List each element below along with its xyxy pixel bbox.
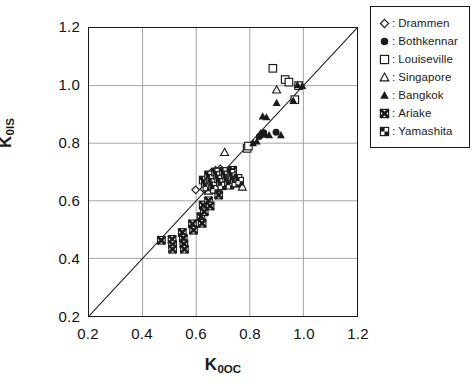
legend-label: Bangkok [398, 89, 443, 101]
legend-label: Singapore [398, 71, 451, 83]
scatter-chart-figure: 0.20.40.60.81.01.2 K0IS 0.20.40.60.81.01… [0, 0, 474, 388]
filled-circle-icon [378, 35, 391, 48]
data-point [221, 148, 229, 155]
y-axis-title: K0IS [0, 118, 16, 148]
x-tick-label: 1.2 [335, 325, 381, 342]
legend-label: Yamashita [398, 125, 452, 137]
x-tick-label: 0.6 [173, 325, 219, 342]
y-tick-label: 1.0 [34, 76, 80, 93]
data-point [158, 236, 166, 244]
legend-label: Louiseville [398, 53, 453, 65]
chart-legend: :Drammen:Bothkennar:Louiseville:Singapor… [370, 6, 470, 148]
x-axis-title-subscript: 0OC [217, 363, 241, 375]
legend-item-singapore: :Singapore [371, 68, 469, 86]
legend-separator: : [392, 107, 395, 119]
legend-item-bothkennar: :Bothkennar [371, 32, 469, 50]
y-tick-label: 0.6 [34, 192, 80, 209]
y-tick-label: 1.2 [34, 18, 80, 35]
x-tick-label: 0.4 [119, 325, 165, 342]
series-louiseville [243, 65, 302, 153]
data-point [190, 226, 198, 234]
plot-area [88, 27, 358, 317]
y-axis-title-subscript: 0IS [4, 118, 16, 135]
legend-item-drammen: :Drammen [371, 14, 469, 32]
legend-separator: : [392, 53, 395, 65]
y-tick-label: 0.2 [34, 308, 80, 325]
plot-canvas [89, 28, 357, 316]
legend-separator: : [392, 71, 395, 83]
data-point [181, 245, 189, 253]
data-point [273, 129, 280, 136]
legend-separator: : [392, 35, 395, 47]
legend-separator: : [392, 89, 395, 101]
data-point [273, 99, 281, 106]
x-axis-title: K0OC [88, 355, 358, 375]
legend-label: Ariake [398, 107, 431, 119]
open-square-icon [378, 53, 391, 66]
legend-item-bangkok: :Bangkok [371, 86, 469, 104]
x-axis-title-base: K [205, 355, 218, 374]
legend-item-ariake: :Ariake [371, 104, 469, 122]
legend-label: Drammen [398, 17, 449, 29]
data-point [198, 219, 206, 227]
y-axis-title-base: K [0, 135, 15, 148]
open-diamond-icon [378, 17, 391, 30]
data-points-layer [158, 65, 307, 253]
open-triangle-icon [378, 71, 391, 84]
legend-item-yamashita: :Yamashita [371, 122, 469, 140]
data-point [206, 202, 214, 210]
filled-triangle-icon [378, 89, 391, 102]
data-point [169, 245, 177, 253]
legend-separator: : [392, 125, 395, 137]
data-point [273, 86, 281, 93]
data-point [236, 177, 244, 185]
y-tick-label: 0.4 [34, 250, 80, 267]
x-tick-label: 0.8 [227, 325, 273, 342]
data-point [285, 78, 293, 86]
data-point [192, 186, 200, 194]
legend-separator: : [392, 17, 395, 29]
x-tick-label: 1.0 [281, 325, 327, 342]
data-point [269, 65, 277, 73]
crossed-square-icon [378, 107, 391, 120]
legend-label: Bothkennar [398, 35, 458, 47]
x-tick-label: 0.2 [65, 325, 111, 342]
legend-item-louiseville: :Louiseville [371, 50, 469, 68]
y-tick-label: 0.8 [34, 134, 80, 151]
quad-square-icon [378, 125, 391, 138]
